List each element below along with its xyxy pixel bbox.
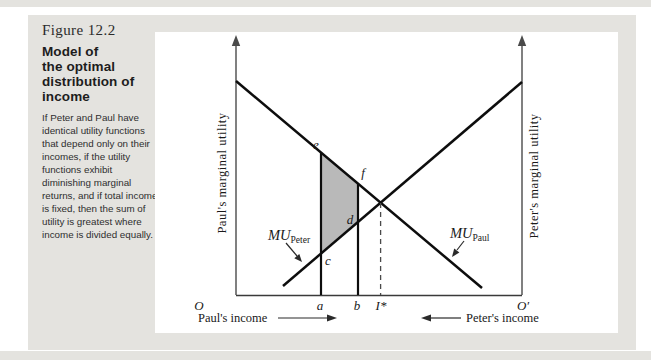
left-axis-label: Paul's marginal utility <box>215 112 229 233</box>
right-axis-label: Peter's marginal utility <box>527 113 541 238</box>
up-arrowhead-icon <box>518 35 526 46</box>
figure-number: Figure 12.2 <box>42 22 160 39</box>
down-left-arrowhead-icon <box>452 249 459 258</box>
paul-income-label: Paul's income <box>198 311 268 325</box>
mu-peter-line <box>283 82 522 286</box>
point-f-label: f <box>361 165 367 180</box>
peter-income-label: Peter's income <box>466 311 539 325</box>
point-e-label: e <box>313 137 319 152</box>
figure-title-line: Model of <box>42 44 160 59</box>
left-arrowhead-icon <box>421 314 431 321</box>
page: Figure 12.2 Model of the optimal distrib… <box>0 0 651 360</box>
figure-caption: If Peter and Paul have identical utility… <box>42 111 160 241</box>
tick-istar-label: I* <box>375 298 387 313</box>
chart-panel: Paul's marginal utility Peter's marginal… <box>155 32 618 333</box>
tick-b-label: b <box>354 298 361 313</box>
top-strip <box>0 0 651 7</box>
mu-paul-label: MUPaul <box>449 225 490 243</box>
up-arrowhead-icon <box>232 35 240 46</box>
bottom-strip <box>0 351 651 360</box>
figure-title-line: distribution of <box>42 74 160 89</box>
figure-sidebar: Figure 12.2 Model of the optimal distrib… <box>42 22 160 241</box>
down-right-arrowhead-icon <box>294 254 302 262</box>
mu-peter-label: MUPeter <box>267 227 311 245</box>
point-c-label: c <box>325 253 331 268</box>
mu-paul-pointer-line <box>457 241 464 250</box>
figure-title-line: the optimal <box>42 59 160 74</box>
income-distribution-diagram: Paul's marginal utility Peter's marginal… <box>155 32 618 333</box>
figure-title: Model of the optimal distribution of inc… <box>42 44 160 104</box>
tick-a-label: a <box>317 298 324 313</box>
point-d-label: d <box>347 212 354 227</box>
right-arrowhead-icon <box>327 314 337 321</box>
figure-title-line: income <box>42 89 160 104</box>
